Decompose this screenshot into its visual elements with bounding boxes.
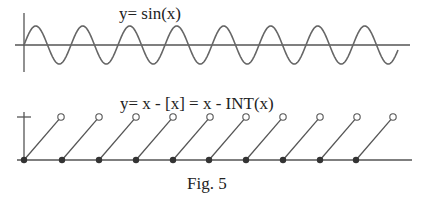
sawtooth-segment — [353, 114, 396, 163]
open-endpoint-circle — [317, 114, 323, 120]
closed-endpoint-dot — [206, 157, 212, 163]
sawtooth-plot-title: y= x - [x] = x - INT(x) — [120, 94, 274, 114]
sawtooth-segment — [21, 114, 64, 163]
closed-endpoint-dot — [21, 157, 27, 163]
closed-endpoint-dot — [170, 157, 176, 163]
open-endpoint-circle — [170, 114, 176, 120]
open-endpoint-circle — [133, 114, 139, 120]
closed-endpoint-dot — [353, 157, 359, 163]
open-endpoint-circle — [390, 114, 396, 120]
closed-endpoint-dot — [59, 157, 65, 163]
sawtooth-segment — [280, 114, 323, 163]
sawtooth-ramp — [136, 120, 171, 160]
sawtooth-segment — [170, 114, 213, 163]
open-endpoint-circle — [354, 114, 360, 120]
sawtooth-ramp — [283, 120, 318, 160]
sawtooth-ramp — [246, 120, 281, 160]
closed-endpoint-dot — [133, 157, 139, 163]
open-endpoint-circle — [58, 114, 64, 120]
open-endpoint-circle — [96, 114, 102, 120]
sawtooth-segment — [206, 114, 249, 163]
sawtooth-ramp — [173, 120, 208, 160]
open-endpoint-circle — [280, 114, 286, 120]
sawtooth-segment — [96, 114, 139, 163]
open-endpoint-circle — [243, 114, 249, 120]
figure-caption: Fig. 5 — [187, 174, 227, 194]
sawtooth-ramp — [209, 120, 244, 160]
sawtooth-segment — [243, 114, 286, 163]
closed-endpoint-dot — [96, 157, 102, 163]
sawtooth-segment — [59, 114, 102, 163]
sawtooth-ramp — [24, 120, 59, 160]
sine-plot — [15, 13, 410, 72]
sawtooth-plot — [17, 112, 412, 163]
open-endpoint-circle — [207, 114, 213, 120]
sine-plot-title: y= sin(x) — [119, 4, 181, 24]
closed-endpoint-dot — [317, 157, 323, 163]
closed-endpoint-dot — [243, 157, 249, 163]
sawtooth-segments — [21, 114, 396, 163]
sawtooth-ramp — [356, 120, 391, 160]
closed-endpoint-dot — [280, 157, 286, 163]
sawtooth-ramp — [99, 120, 134, 160]
sawtooth-segment — [317, 114, 360, 163]
sawtooth-ramp — [62, 120, 97, 160]
sawtooth-segment — [133, 114, 176, 163]
sawtooth-ramp — [320, 120, 355, 160]
